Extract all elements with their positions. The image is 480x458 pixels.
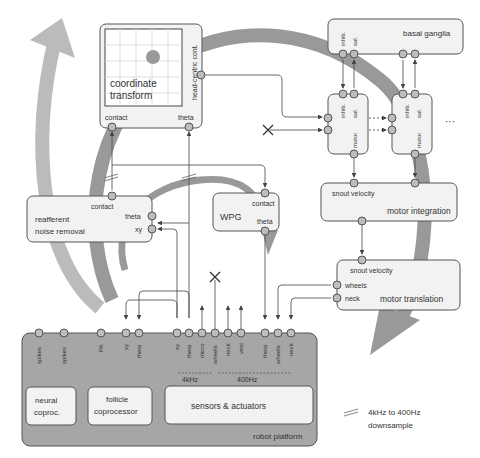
motor-translation-module[interactable]: snout velocity wheels neck motor transla… bbox=[333, 256, 460, 310]
coordinate-transform-module[interactable]: coordinate transform head-centric cont. … bbox=[100, 24, 205, 131]
port-label: theta bbox=[262, 344, 268, 358]
port-label: vest bbox=[238, 343, 244, 354]
motor-integration-title: motor integration bbox=[387, 206, 451, 216]
neural-label: neural bbox=[35, 396, 57, 405]
port-label: xy bbox=[174, 344, 180, 350]
basal-ganglia-title: basal ganglia bbox=[403, 29, 451, 38]
sal-label: sal. bbox=[352, 36, 358, 46]
wpg-title: WPG bbox=[220, 212, 242, 222]
sensors-label: sensors & actuators bbox=[191, 401, 266, 411]
wheels-port-label: wheels bbox=[344, 282, 367, 289]
port-label: wheels bbox=[275, 345, 281, 365]
rate-400hz-label: 400Hz bbox=[237, 376, 258, 383]
legend-text-2: downsample bbox=[368, 421, 413, 430]
xy-port-label: xy bbox=[135, 226, 143, 234]
port-label: spikes bbox=[36, 347, 42, 364]
neck-port-label: neck bbox=[345, 295, 360, 302]
port-label: wheels bbox=[212, 345, 218, 365]
theta-port-label: theta bbox=[125, 213, 141, 220]
port-label: xy bbox=[123, 344, 129, 350]
head-centric-label: head-centric cont. bbox=[191, 44, 198, 100]
port-label: PA bbox=[98, 344, 104, 352]
snout-velocity-label: snout velocity bbox=[332, 190, 375, 198]
basal-ganglia-module[interactable]: basal ganglia inhib. sal. bbox=[328, 19, 463, 58]
port-label: micro bbox=[199, 343, 205, 358]
theta-port-label: theta bbox=[257, 218, 273, 225]
rate-4khz-label: 4kHz bbox=[182, 376, 198, 383]
port-label: neck bbox=[225, 342, 231, 356]
neural-label-2: coproc. bbox=[34, 408, 60, 417]
reafferent-subtitle: noise removal bbox=[35, 227, 85, 236]
port-label: theta bbox=[186, 344, 192, 358]
more-channels-ellipsis: ··· bbox=[445, 116, 455, 127]
follicle-label-2: coprocessor bbox=[94, 407, 138, 416]
port-label: theta bbox=[136, 344, 142, 358]
contact-port-label: contact bbox=[252, 200, 275, 207]
motor-integration-module[interactable]: snout velocity motor integration bbox=[321, 179, 457, 225]
port-label: neck bbox=[288, 342, 294, 356]
motor-translation-title: motor translation bbox=[380, 294, 444, 304]
inhib-label: inhib. bbox=[404, 103, 410, 118]
sal-label: sal. bbox=[416, 108, 422, 118]
snout-velocity-label: snout velocity bbox=[350, 267, 393, 275]
port-label: spikes bbox=[61, 347, 67, 364]
legend: 4kHz to 400Hz downsample bbox=[344, 408, 420, 430]
coordinate-transform-subtitle: transform bbox=[110, 90, 152, 101]
reafferent-noise-removal-module[interactable]: reafferent noise removal contact theta x… bbox=[27, 192, 156, 242]
motor-label: motor bbox=[352, 133, 358, 148]
motor-label: motor bbox=[416, 133, 422, 148]
inhib-label: inhib. bbox=[340, 31, 346, 46]
target-dot-icon bbox=[146, 50, 160, 64]
reafferent-title: reafferent bbox=[35, 215, 70, 224]
action-channel-1[interactable]: inhib. sal. motor bbox=[324, 90, 368, 158]
neural-coprocessor-box[interactable] bbox=[26, 387, 76, 425]
theta-port-label: theta bbox=[178, 114, 194, 121]
robot-platform-title: robot platform bbox=[253, 432, 303, 441]
sal-label: sal. bbox=[352, 108, 358, 118]
follicle-coprocessor-box[interactable] bbox=[88, 387, 152, 425]
contact-port-label: contact bbox=[105, 114, 128, 121]
legend-text: 4kHz to 400Hz bbox=[368, 408, 420, 417]
robot-platform-module[interactable]: robot platform spikes spikes PA xy theta… bbox=[22, 329, 317, 446]
action-channel-2[interactable]: inhib. sal. motor bbox=[388, 90, 432, 158]
inhib-label: inhib. bbox=[340, 103, 346, 118]
follicle-label: follicle bbox=[106, 395, 129, 404]
architecture-diagram: coordinate transform head-centric cont. … bbox=[0, 0, 480, 458]
contact-port-label: contact bbox=[91, 203, 114, 210]
wpg-module[interactable]: WPG contact theta bbox=[213, 189, 279, 235]
coordinate-transform-title: coordinate bbox=[110, 78, 157, 89]
